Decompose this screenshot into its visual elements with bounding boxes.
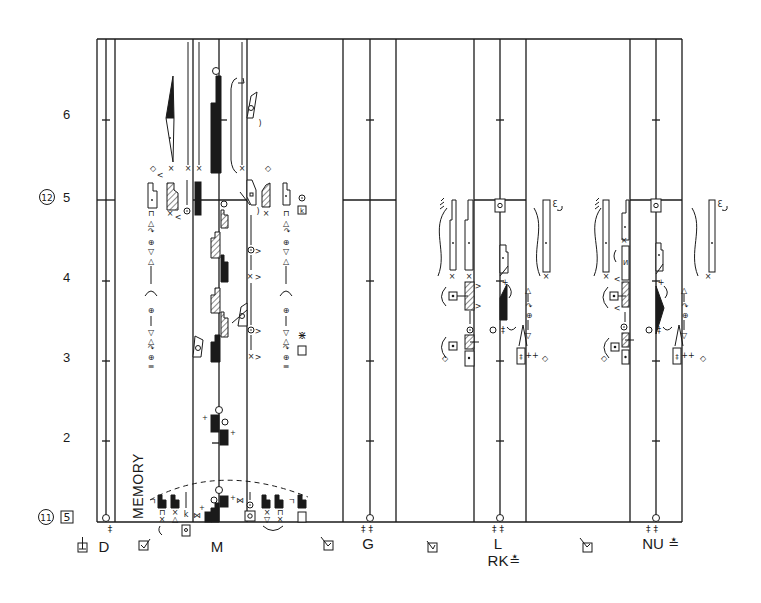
m-left-glyph-column: ⊓ △ ↷ ⊕ ▽ △ ⊕ ▽ △ ↷ ⊕ ≡ bbox=[145, 209, 157, 371]
svg-text:⊕: ⊕ bbox=[682, 311, 689, 320]
svg-text:<: < bbox=[614, 275, 621, 284]
wedge-white bbox=[166, 118, 174, 162]
beat-number-5: 5 bbox=[63, 190, 70, 205]
feather-icon: ⋇ bbox=[297, 329, 306, 342]
svg-text:▽: ▽ bbox=[264, 515, 271, 524]
beat-numbers: 6 5 4 3 2 bbox=[63, 107, 70, 445]
svg-text:⊕: ⊕ bbox=[283, 353, 290, 362]
nu-staff-symbols: × × И < < ◇ + ‡ ‡ + bbox=[594, 198, 727, 534]
svg-text:×: × bbox=[277, 515, 284, 524]
l-start-circle bbox=[497, 515, 504, 522]
wedge-black bbox=[166, 76, 174, 118]
svg-text:△: △ bbox=[525, 286, 532, 295]
svg-text:⊕: ⊕ bbox=[283, 238, 290, 247]
svg-text:↷: ↷ bbox=[682, 302, 689, 311]
staff-label-rk: RK bbox=[488, 552, 509, 569]
svg-text:×: × bbox=[248, 352, 255, 361]
svg-text:ㄱ: ㄱ bbox=[288, 497, 295, 506]
svg-text:△: △ bbox=[172, 515, 179, 524]
cross-icon: × bbox=[168, 164, 175, 173]
svg-text:): ) bbox=[256, 207, 259, 216]
score-canvas: 6 5 4 3 2 12 11 5 ‡ MEMORY bbox=[0, 0, 761, 603]
svg-text:▽: ▽ bbox=[148, 328, 155, 337]
svg-text:+: + bbox=[202, 414, 208, 422]
m-staff-middle-symbols: × < ) × k ⊓ △ ↷ ⊕ ▽ △ ⊕ ▽ △ ↷ bbox=[145, 180, 307, 371]
labanotation-score: 6 5 4 3 2 12 11 5 ‡ MEMORY bbox=[0, 0, 761, 603]
svg-text:<: < bbox=[175, 213, 182, 222]
staff-labels: D M G L RK ≛ NU ≛ bbox=[78, 535, 679, 569]
svg-text:++: ++ bbox=[525, 351, 538, 360]
svg-text:И: И bbox=[623, 259, 628, 267]
svg-text:×: × bbox=[466, 272, 473, 281]
svg-text:×: × bbox=[603, 272, 610, 281]
svg-text:×: × bbox=[543, 272, 550, 281]
svg-text:5: 5 bbox=[64, 511, 71, 524]
measure-number-11: 11 bbox=[39, 510, 54, 525]
svg-text:▽: ▽ bbox=[681, 331, 688, 340]
svg-text:◇: ◇ bbox=[442, 354, 449, 363]
svg-text:×: × bbox=[159, 515, 166, 524]
staff-label-g: G bbox=[362, 535, 374, 552]
svg-text:◇: ◇ bbox=[542, 354, 549, 363]
svg-text:⊕: ⊕ bbox=[148, 353, 155, 362]
beat-number-2: 2 bbox=[63, 430, 70, 445]
svg-text:▽: ▽ bbox=[283, 328, 290, 337]
svg-text:△: △ bbox=[681, 286, 688, 295]
svg-text:>: > bbox=[255, 353, 262, 362]
svg-text:◇: ◇ bbox=[601, 354, 608, 363]
svg-text:): ) bbox=[258, 119, 261, 128]
svg-text:≡: ≡ bbox=[283, 362, 290, 371]
nu-hold-mark: ‡ ‡ bbox=[646, 524, 658, 534]
svg-text:×: × bbox=[449, 272, 456, 281]
svg-text:×: × bbox=[705, 272, 712, 281]
svg-text:×: × bbox=[247, 272, 254, 281]
bowtie-icon: ⋈ bbox=[236, 496, 244, 505]
beat-number-4: 4 bbox=[63, 270, 70, 285]
cross-icon: × bbox=[239, 164, 246, 173]
beat-number-6: 6 bbox=[63, 107, 70, 122]
l-hold-mark: ‡ ‡ bbox=[492, 524, 504, 534]
svg-text:>: > bbox=[255, 247, 262, 256]
m-right-glyph-column: ⊓ △ ↷ ⊕ ▽ △ ⊕ ▽ △ ↷ ⊕ ≡ bbox=[280, 209, 292, 371]
svg-text:+: + bbox=[658, 278, 665, 287]
svg-text:‡: ‡ bbox=[657, 326, 661, 335]
svg-text:↷: ↷ bbox=[148, 344, 155, 353]
svg-text:>: > bbox=[255, 273, 262, 282]
svg-text:Ɛ: Ɛ bbox=[553, 200, 558, 209]
memory-annotation: MEMORY bbox=[130, 453, 146, 519]
svg-text:12: 12 bbox=[41, 193, 52, 203]
measure-number-12: 12 bbox=[40, 190, 55, 205]
cross-icon: × bbox=[196, 164, 203, 173]
g-start-circle bbox=[367, 515, 374, 522]
svg-text:↷: ↷ bbox=[284, 227, 291, 236]
svg-text:+: + bbox=[230, 429, 236, 437]
parallelogram bbox=[247, 92, 257, 118]
svg-text:>: > bbox=[475, 282, 482, 291]
m-staff-top-symbols: ) ◇ × × × × ◇ < bbox=[150, 42, 272, 180]
svg-text:↷: ↷ bbox=[283, 344, 290, 353]
g-hold-mark: ‡ ‡ bbox=[361, 524, 373, 534]
circle-icon bbox=[213, 68, 220, 75]
m-black-bar bbox=[211, 76, 221, 173]
beat-number-3: 3 bbox=[63, 350, 70, 365]
svg-text:⊕: ⊕ bbox=[283, 306, 290, 315]
svg-text:⊓: ⊓ bbox=[283, 209, 289, 218]
svg-text:⊕: ⊕ bbox=[148, 238, 155, 247]
staff-label-l: L bbox=[494, 535, 502, 552]
svg-text:▽: ▽ bbox=[525, 331, 532, 340]
d-hold-mark: ‡ bbox=[108, 524, 113, 534]
svg-text:⊕: ⊕ bbox=[526, 311, 533, 320]
svg-text:▽: ▽ bbox=[283, 247, 290, 256]
svg-text:△: △ bbox=[283, 257, 290, 266]
svg-text:>: > bbox=[475, 302, 482, 311]
m-center-staircase bbox=[193, 201, 247, 362]
nu-start-circle bbox=[653, 515, 660, 522]
staff-label-d: D bbox=[99, 538, 110, 555]
diamond-icon: ◇ bbox=[265, 164, 272, 173]
svg-text:++: ++ bbox=[681, 351, 694, 360]
staff-frame bbox=[97, 39, 682, 522]
rk-mark: ≛ bbox=[510, 553, 521, 568]
m-staff-lower-symbols: + + + + ⋈ ⋈ ㄱ × ▽ ⊓ × ㄱ ⊓ × × △ bbox=[149, 407, 307, 537]
svg-text:≡: ≡ bbox=[148, 362, 155, 371]
m-right-track: × × > > > > ⋇ bbox=[247, 215, 307, 362]
